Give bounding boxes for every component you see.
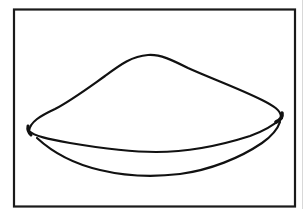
sketch-figure bbox=[0, 0, 306, 209]
scan-edge-line bbox=[302, 0, 303, 209]
sketch-canvas bbox=[0, 0, 306, 209]
